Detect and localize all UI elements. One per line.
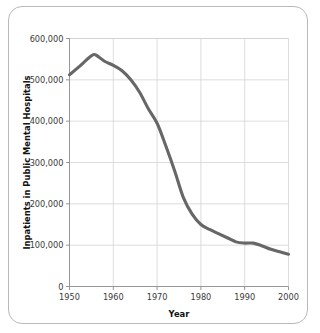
x-tick-label: 1960 <box>103 292 124 302</box>
axes-group <box>66 39 289 291</box>
x-tick-label: 1970 <box>147 292 168 302</box>
line-chart-figure: 0100,000200,000300,000400,000500,000600,… <box>0 0 320 333</box>
data-line-inpatients <box>70 54 289 254</box>
y-tick-label: 300,000 <box>30 158 64 168</box>
x-tick-label: 1950 <box>59 292 80 302</box>
y-tick-labels-group: 0100,000200,000300,000400,000500,000600,… <box>30 34 64 292</box>
x-tick-label: 1990 <box>234 292 255 302</box>
chart-svg: 0100,000200,000300,000400,000500,000600,… <box>0 0 320 333</box>
x-tick-labels-group: 195019601970198019902000 <box>59 292 299 302</box>
x-axis-title: Year <box>168 309 191 319</box>
x-tick-label: 1980 <box>190 292 211 302</box>
y-tick-label: 400,000 <box>30 116 64 126</box>
x-tick-label: 2000 <box>278 292 299 302</box>
gridlines-group <box>70 39 289 287</box>
y-tick-label: 500,000 <box>30 75 64 85</box>
y-tick-label: 0 <box>58 282 63 292</box>
y-tick-label: 600,000 <box>30 34 64 44</box>
y-tick-label: 100,000 <box>30 240 64 250</box>
y-axis-title: Inpatients in Public Mental Hospitals <box>22 75 32 249</box>
y-tick-label: 200,000 <box>30 199 64 209</box>
data-series-group <box>70 54 289 254</box>
